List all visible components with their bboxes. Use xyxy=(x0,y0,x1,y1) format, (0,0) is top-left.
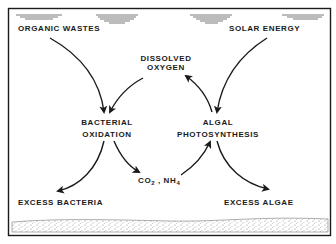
label-dissolved-oxygen: DISSOLVED OXYGEN xyxy=(136,54,196,72)
label-algal-photosynthesis: ALGAL PHOTOSYNTHESIS xyxy=(176,118,260,139)
water-lines-3 xyxy=(190,15,232,23)
label-organic-wastes: ORGANIC WASTES xyxy=(18,24,100,33)
algal-photosynthesis-line2: PHOTOSYNTHESIS xyxy=(176,130,260,139)
nh4-subscript: 4 xyxy=(176,180,180,186)
dissolved-oxygen-line2: OXYGEN xyxy=(136,63,196,72)
bacterial-oxidation-line1: BACTERIAL xyxy=(74,118,140,127)
label-excess-bacteria: EXCESS BACTERIA xyxy=(18,198,103,207)
arrow-bacterial-to-nutrients xyxy=(114,141,139,172)
water-lines-1 xyxy=(16,15,62,19)
arrow-algal-to-oxygen xyxy=(186,76,212,112)
label-excess-algae: EXCESS ALGAE xyxy=(224,198,294,207)
label-co2-nh4: CO2 , NH4 xyxy=(138,176,180,188)
diagram-canvas xyxy=(0,0,336,244)
sediment-layer xyxy=(12,218,328,232)
separator: , xyxy=(155,176,163,185)
arrow-solar-to-algal xyxy=(217,38,267,112)
dissolved-oxygen-line1: DISSOLVED xyxy=(136,54,196,63)
arrow-algal-to-excess-algae xyxy=(217,141,268,189)
water-lines-4 xyxy=(282,15,324,19)
water-surface-lines xyxy=(16,15,324,23)
water-lines-2 xyxy=(96,15,138,23)
arrow-oxygen-to-bacterial xyxy=(110,78,143,112)
label-bacterial-oxidation: BACTERIAL OXIDATION xyxy=(74,118,140,139)
arrow-bacterial-to-excess-bacteria xyxy=(58,141,104,191)
algal-photosynthesis-line1: ALGAL xyxy=(176,118,260,127)
co2-text: CO xyxy=(138,176,151,185)
nh4-text: NH xyxy=(164,176,177,185)
bacterial-oxidation-line2: OXIDATION xyxy=(74,130,140,139)
label-solar-energy: SOLAR ENERGY xyxy=(229,24,300,33)
arrow-wastes-to-bacterial xyxy=(50,38,104,112)
arrow-nutrients-to-algal xyxy=(181,142,210,175)
